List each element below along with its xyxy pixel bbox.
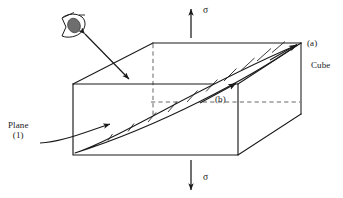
cube-stress-diagram [0,0,343,198]
cube-label: Cube [311,60,330,70]
plane-wedge-outline [75,45,297,153]
plane-label-line2: (1) [8,130,29,140]
plane-label-line1: Plane [8,120,29,130]
figure-container: Plane (1) (a) Cube (b) σ σ [0,0,343,198]
plane-label: Plane (1) [8,120,29,141]
eye-icon [62,13,85,38]
sigma-top-label: σ [203,5,208,16]
plane-arrow-to-a [270,45,297,61]
curved-arrow-icon [40,124,110,143]
double-arrow-icon [85,34,129,79]
cube-edge-right-bottom [238,114,301,155]
sigma-bottom-label: σ [203,172,208,183]
corner-a-label: (a) [307,38,317,48]
cube-edge-top-left [73,43,153,84]
point-b-label: (b) [215,94,226,104]
